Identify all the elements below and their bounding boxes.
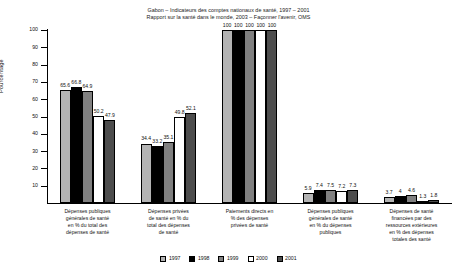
- bar: [266, 30, 277, 203]
- legend-swatch-icon: [218, 256, 224, 262]
- y-axis-tick-label: 10: [18, 183, 38, 188]
- bar-value-label: 100: [263, 23, 280, 28]
- y-axis-tick-label: 70: [18, 79, 38, 84]
- legend-swatch-icon: [189, 256, 195, 262]
- legend-label: 1997: [169, 256, 181, 261]
- bar: [233, 30, 244, 203]
- bar: [104, 120, 115, 203]
- bar: [347, 190, 358, 203]
- y-axis-tick-label: 30: [18, 149, 38, 154]
- bar: [428, 200, 439, 203]
- chart-container: Gabon – Indicateurs des comptes nationau…: [0, 0, 457, 274]
- bar: [82, 91, 93, 203]
- bar: [395, 196, 406, 203]
- category-label-line: financées par des: [364, 215, 457, 222]
- chart-legend: 19971998199920002001: [0, 256, 457, 262]
- y-axis-tick-label: 80: [18, 62, 38, 67]
- legend-item[interactable]: 1997: [160, 256, 180, 262]
- legend-label: 1998: [198, 256, 210, 261]
- bar: [152, 146, 163, 203]
- legend-label: 2000: [256, 256, 268, 261]
- y-axis-title: Pourcentage: [0, 59, 4, 93]
- bar-value-label: 7.3: [344, 183, 361, 188]
- plot-area: 65.666.864.950.247.934.433.235.149.852.1…: [47, 30, 452, 203]
- y-axis-tick-label: 60: [18, 97, 38, 102]
- bar: [60, 90, 71, 203]
- bar-value-label: 4.6: [403, 188, 420, 193]
- bar-value-label: 1.8: [425, 193, 442, 198]
- y-axis-tick-label: 90: [18, 45, 38, 50]
- bar: [384, 197, 395, 203]
- legend-swatch-icon: [248, 256, 254, 262]
- bar: [303, 193, 314, 203]
- chart-subtitle: Rapport sur la santé dans le monde, 2003…: [0, 14, 457, 21]
- bar-value-label: 47.9: [101, 113, 118, 118]
- bar: [244, 30, 255, 203]
- bar: [222, 30, 233, 203]
- bar: [325, 190, 336, 203]
- bar: [163, 142, 174, 203]
- category-label-line: totales des santé: [364, 236, 457, 243]
- legend-item[interactable]: 1998: [189, 256, 209, 262]
- category-label-line: ressources extérieures: [364, 222, 457, 229]
- legend-item[interactable]: 1999: [218, 256, 238, 262]
- y-axis-tick-label: 50: [18, 114, 38, 119]
- legend-label: 2001: [285, 256, 297, 261]
- category-label-line: Dépenses de santé: [364, 208, 457, 215]
- y-axis-tick-label: 40: [18, 131, 38, 136]
- legend-label: 1999: [227, 256, 239, 261]
- bar: [174, 117, 185, 203]
- category-label-line: de santé: [121, 229, 216, 236]
- bar-value-label: 64.9: [79, 84, 96, 89]
- chart-title-block: Gabon – Indicateurs des comptes nationau…: [0, 7, 457, 21]
- bar: [336, 191, 347, 203]
- legend-item[interactable]: 2000: [248, 256, 268, 262]
- chart-title: Gabon – Indicateurs des comptes nationau…: [0, 7, 457, 14]
- y-axis-tick-label: 100: [18, 27, 38, 32]
- bar: [71, 87, 82, 203]
- bar: [141, 144, 152, 204]
- legend-swatch-icon: [277, 256, 283, 262]
- bar: [417, 201, 428, 203]
- category-label: Dépenses de santéfinancées par desressou…: [364, 208, 457, 243]
- x-axis-line: [47, 203, 452, 204]
- legend-swatch-icon: [160, 256, 166, 262]
- legend-item[interactable]: 2001: [277, 256, 297, 262]
- bar: [185, 113, 196, 203]
- bar: [255, 30, 266, 203]
- y-axis-tick-label: 20: [18, 166, 38, 171]
- bar-value-label: 52.1: [182, 106, 199, 111]
- category-label-line: en % des dépenses: [364, 229, 457, 236]
- bar: [314, 190, 325, 203]
- bar: [93, 116, 104, 203]
